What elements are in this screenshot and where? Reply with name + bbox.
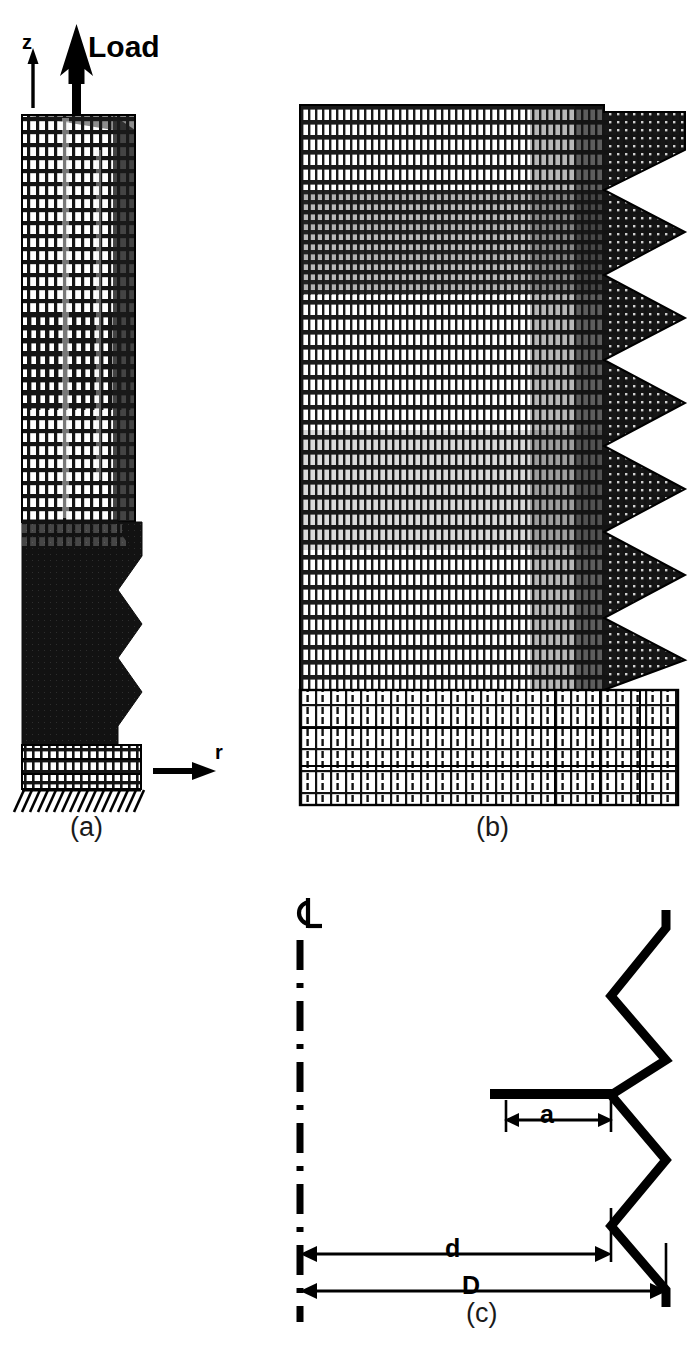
centerline-symbol-icon — [299, 898, 322, 928]
thread-profile-c — [611, 910, 666, 1307]
panel-a-caption: (a) — [70, 814, 103, 841]
dimension-a — [504, 1113, 613, 1127]
dimension-D — [300, 1283, 667, 1299]
panel-b-base-block — [300, 690, 678, 805]
panel-a-base-mesh — [22, 745, 141, 789]
panel-a-graphics — [0, 0, 700, 1362]
dimension-d-label: d — [445, 1236, 460, 1261]
r-axis-label: r — [215, 742, 223, 762]
dimension-a-label: a — [540, 1102, 554, 1127]
figure-root: z Load r (a) (b) a d D (c) — [0, 0, 700, 1362]
z-axis-arrow — [28, 48, 39, 108]
panel-a-upper-mesh — [22, 115, 135, 528]
panel-c-caption: (c) — [466, 1300, 497, 1327]
panel-b-mesh — [300, 105, 690, 690]
shank-line-c — [490, 1089, 614, 1099]
dimension-D-label: D — [462, 1273, 480, 1298]
load-label: Load — [88, 32, 160, 62]
z-axis-label: z — [22, 32, 32, 52]
extension-lines-c — [506, 1100, 666, 1300]
panel-b-caption: (b) — [476, 814, 509, 841]
r-axis-arrow — [153, 762, 216, 780]
fixed-support-hatching — [14, 790, 144, 812]
panel-a-thread-region — [22, 520, 142, 745]
